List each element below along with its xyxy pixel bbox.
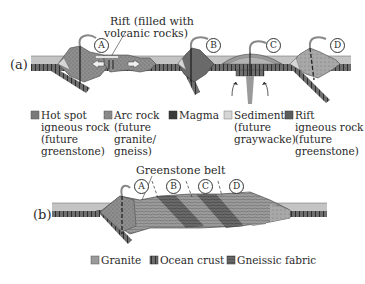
- mantle-plume-c: [246, 76, 254, 104]
- legend-granite: Granite: [101, 254, 141, 266]
- marker-d: D: [330, 38, 345, 53]
- rift-fill: [96, 56, 118, 58]
- granite-arc: [100, 196, 136, 232]
- swatch-ocean-crust: [150, 256, 158, 264]
- plume-d: [310, 37, 326, 48]
- greenstone-belt-note: Greenstone belt: [136, 165, 225, 177]
- panel-b-diagram: [52, 176, 327, 244]
- swatch-gneissic-fabric: [227, 256, 235, 264]
- rift-note-line2: volcanic rocks): [104, 28, 188, 40]
- legend-sediment: Sediment (future graywacke): [234, 109, 296, 145]
- legend-magma: Magma: [179, 109, 219, 121]
- legend-rift: Rift igneous rock (future greenstone): [295, 109, 363, 157]
- marker-b: B: [206, 38, 221, 53]
- legend-ocean-crust: Ocean crust: [160, 254, 224, 266]
- marker-b-b: B: [166, 179, 181, 194]
- marker-c: C: [266, 38, 281, 53]
- marker-b-c: C: [198, 179, 213, 194]
- legend-arc-rock: Arc rock (future granite/ gneiss): [114, 109, 159, 157]
- legend-gneissic-fabric: Gneissic fabric: [237, 254, 316, 266]
- legend-hot-spot: Hot spot igneous rock (future greenstone…: [41, 109, 109, 157]
- marker-b-a: A: [134, 179, 149, 194]
- swatch-sediment: [224, 111, 232, 119]
- panel-b-label: (b): [33, 207, 51, 222]
- swatch-hot-spot: [31, 111, 39, 119]
- plume-c: [250, 41, 266, 52]
- plume-b-panel: [121, 186, 130, 196]
- marker-b-d: D: [229, 179, 244, 194]
- ocean-crust-right: [290, 211, 327, 217]
- panel-a-diagram: [31, 31, 351, 104]
- ocean-crust-left: [52, 211, 100, 217]
- swatch-granite: [91, 256, 99, 264]
- marker-a: A: [94, 38, 109, 53]
- swatch-magma: [169, 111, 177, 119]
- panel-a-label: (a): [10, 57, 28, 72]
